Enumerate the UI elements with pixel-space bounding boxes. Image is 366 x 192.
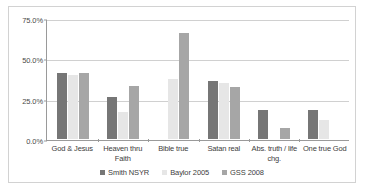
bar[interactable] (280, 128, 290, 139)
legend-label: Baylor 2005 (170, 168, 209, 177)
y-tick-mark (44, 60, 47, 61)
y-tick-mark (44, 100, 47, 101)
bar-group (299, 20, 349, 139)
chart-legend: Smith NSYRBaylor 2005GSS 2008 (9, 168, 355, 177)
bar[interactable] (68, 75, 78, 139)
bar-group (48, 20, 98, 139)
bar[interactable] (168, 79, 178, 140)
x-tick-mark (199, 139, 200, 142)
bar[interactable] (118, 112, 128, 139)
bar[interactable] (319, 120, 329, 139)
x-tick-mark (299, 139, 300, 142)
x-tick-mark (98, 139, 99, 142)
x-axis-label: One true God (300, 144, 351, 163)
plot-area: 75.0%50.0%25.0%0.0% (46, 20, 349, 141)
bar[interactable] (129, 86, 139, 139)
chart-container: 75.0%50.0%25.0%0.0% God & JesusHeaven th… (8, 6, 356, 183)
bar[interactable] (79, 73, 89, 139)
x-axis-category-labels: God & JesusHeaven thru FaithBible trueSa… (47, 144, 350, 163)
x-axis-label: God & Jesus (47, 144, 98, 163)
legend-swatch-icon (222, 170, 227, 175)
bar[interactable] (107, 97, 117, 139)
x-axis-label: Abs. truth / life chg. (249, 144, 300, 163)
bar[interactable] (258, 110, 268, 139)
legend-swatch-icon (100, 170, 105, 175)
y-tick-mark (44, 20, 47, 21)
bar[interactable] (208, 81, 218, 139)
bar[interactable] (230, 87, 240, 139)
x-tick-mark (148, 139, 149, 142)
bar-group (148, 20, 198, 139)
x-axis-label: Bible true (148, 144, 199, 163)
x-tick-mark (249, 139, 250, 142)
legend-label: Smith NSYR (108, 168, 149, 177)
x-axis-label: Satan real (199, 144, 250, 163)
bar-groups (48, 20, 349, 139)
x-axis-label: Heaven thru Faith (98, 144, 149, 163)
legend-item[interactable]: Baylor 2005 (162, 168, 209, 177)
bar[interactable] (308, 110, 318, 139)
legend-item[interactable]: Smith NSYR (100, 168, 149, 177)
y-tick-label: 50.0% (22, 56, 43, 65)
legend-label: GSS 2008 (230, 168, 264, 177)
plot-wrapper: 75.0%50.0%25.0%0.0% God & JesusHeaven th… (9, 7, 355, 182)
y-tick-label: 75.0% (22, 16, 43, 25)
bar[interactable] (219, 83, 229, 139)
bar[interactable] (57, 73, 67, 139)
legend-item[interactable]: GSS 2008 (222, 168, 264, 177)
bar-group (249, 20, 299, 139)
y-tick-mark (44, 141, 47, 142)
bar-group (199, 20, 249, 139)
y-tick-label: 0.0% (26, 137, 43, 146)
legend-swatch-icon (162, 170, 167, 175)
y-tick-label: 25.0% (22, 96, 43, 105)
bar[interactable] (179, 33, 189, 139)
bar-group (98, 20, 148, 139)
